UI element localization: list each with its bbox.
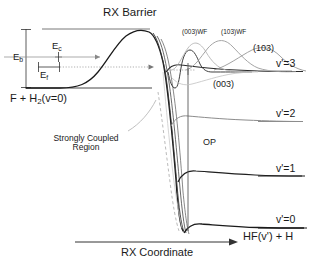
- reactant-label: F + H2(v=0): [10, 92, 67, 106]
- product-label: HF(v') + H: [243, 230, 293, 242]
- vib-level-label-0-base: v'=: [276, 213, 289, 225]
- vib-level-label-3: v'=3: [276, 58, 295, 70]
- rx-coordinate-axis: [75, 239, 238, 246]
- vib-level-label-3-value: 3: [289, 57, 295, 69]
- state-label-003wf: (003)WF: [182, 28, 207, 35]
- vib-level-label-1: v'=1: [276, 163, 295, 175]
- page-title: RX Barrier: [103, 6, 157, 19]
- energy-label-Ef: Ef: [40, 70, 48, 81]
- wavefunction-003-envelope: [172, 43, 258, 72]
- state-label-103wf: (103)WF: [221, 28, 246, 35]
- reactant-label-prefix: F + H: [10, 92, 37, 104]
- energy-label-Ef-sub: f: [46, 74, 48, 81]
- energy-guide-arrowhead: [149, 65, 155, 70]
- x-axis-label: RX Coordinate: [121, 246, 193, 258]
- vib-level-label-3-base: v'=: [276, 57, 289, 69]
- state-label-003: (003): [213, 80, 234, 90]
- vib-level-label-1-value: 1: [289, 162, 295, 174]
- outer-turning-point-label: OP: [203, 138, 216, 148]
- energy-label-Eb-sub: b: [19, 56, 23, 63]
- energy-label-Ec-sub: c: [58, 45, 61, 52]
- vib-level-label-2-value: 2: [289, 107, 295, 119]
- wavefunction-003-curve: [168, 50, 252, 88]
- energy-label-Ec: Ec: [52, 41, 62, 52]
- vib-level-label-0: v'=0: [276, 214, 295, 226]
- strongly-coupled-line2: Region: [41, 143, 131, 152]
- vib-level-label-0-value: 0: [289, 213, 295, 225]
- reaction-path-potential-curve: [26, 30, 183, 231]
- vib-level-label-2-base: v'=: [276, 107, 289, 119]
- strongly-coupled-region-label: Strongly Coupled Region: [41, 134, 131, 153]
- state-label-103: (103): [253, 44, 274, 54]
- strongly-coupled-leader-line: [128, 100, 156, 131]
- reactant-label-suffix: (v=0): [42, 92, 67, 104]
- vib-level-label-1-base: v'=: [276, 162, 289, 174]
- vib-level-label-2: v'=2: [276, 108, 295, 120]
- reaction-path-diagram: RX Barrier Eb Ec Ef F + H2(v=0) Strongly…: [0, 0, 319, 268]
- energy-label-Eb: Eb: [13, 52, 23, 63]
